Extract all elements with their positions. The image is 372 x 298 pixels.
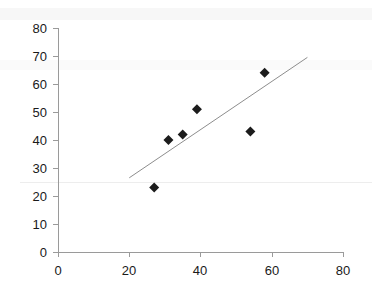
y-tick-label-30: 30 — [33, 161, 47, 176]
y-tick-label-0: 0 — [40, 245, 47, 260]
y-tick-label-70: 70 — [33, 49, 47, 64]
x-tick-label-80: 80 — [336, 263, 350, 278]
y-tick-label-10: 10 — [33, 217, 47, 232]
data-point — [178, 129, 188, 139]
y-tick-label-20: 20 — [33, 189, 47, 204]
x-axis-group: 0 20 40 60 80 — [54, 252, 350, 278]
data-point — [260, 68, 270, 78]
y-axis-group: 80 70 60 50 40 30 20 10 0 — [33, 21, 58, 260]
y-tick-label-60: 60 — [33, 77, 47, 92]
data-point — [149, 183, 159, 193]
data-point — [163, 135, 173, 145]
trend-line — [129, 57, 307, 177]
x-tick-label-20: 20 — [122, 263, 136, 278]
y-tick-marks — [53, 28, 58, 252]
data-point — [192, 104, 202, 114]
x-tick-label-40: 40 — [193, 263, 207, 278]
x-tick-label-60: 60 — [265, 263, 279, 278]
x-tick-marks — [58, 252, 343, 257]
data-point-group — [149, 68, 269, 193]
y-tick-label-80: 80 — [33, 21, 47, 36]
x-tick-label-0: 0 — [54, 263, 61, 278]
data-point — [245, 127, 255, 137]
y-tick-label-50: 50 — [33, 105, 47, 120]
scatter-chart: 80 70 60 50 40 30 20 10 0 0 20 40 60 80 — [0, 0, 372, 298]
y-tick-label-40: 40 — [33, 133, 47, 148]
plot-canvas: 80 70 60 50 40 30 20 10 0 0 20 40 60 80 — [0, 0, 372, 298]
